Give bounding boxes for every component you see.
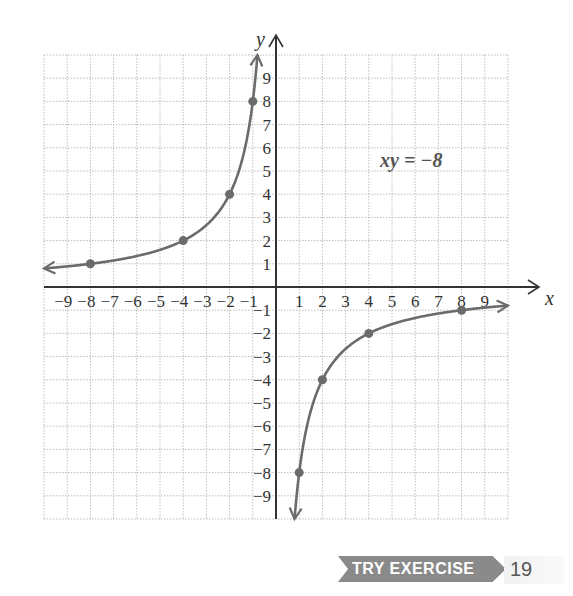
- svg-text:3: 3: [341, 292, 350, 311]
- axes: [44, 35, 539, 519]
- x-axis-label: x: [544, 287, 554, 309]
- svg-text:1: 1: [263, 255, 272, 274]
- svg-text:−5: −5: [147, 292, 165, 311]
- exercise-number: 19: [510, 558, 532, 581]
- svg-text:−3: −3: [253, 348, 271, 367]
- svg-text:−2: −2: [217, 292, 235, 311]
- svg-text:−7: −7: [101, 292, 120, 311]
- svg-text:1: 1: [295, 292, 304, 311]
- banner-label: TRY EXERCISE: [352, 560, 474, 578]
- svg-text:−9: −9: [54, 292, 72, 311]
- svg-text:8: 8: [263, 92, 272, 111]
- svg-text:−7: −7: [253, 440, 272, 459]
- svg-text:9: 9: [263, 69, 272, 88]
- svg-text:5: 5: [388, 292, 397, 311]
- svg-text:−4: −4: [170, 292, 189, 311]
- svg-text:−4: −4: [253, 371, 272, 390]
- svg-text:5: 5: [263, 162, 272, 181]
- svg-text:2: 2: [318, 292, 327, 311]
- svg-text:−9: −9: [253, 487, 271, 506]
- svg-text:−6: −6: [253, 417, 271, 436]
- svg-text:3: 3: [263, 208, 272, 227]
- svg-text:−8: −8: [253, 464, 271, 483]
- svg-text:4: 4: [365, 292, 374, 311]
- hyperbola-graph: −9−8−7−6−5−4−3−2−1123456789987654321−1−2…: [0, 0, 573, 596]
- svg-text:6: 6: [263, 139, 272, 158]
- svg-text:−6: −6: [124, 292, 142, 311]
- svg-text:6: 6: [411, 292, 420, 311]
- svg-text:−2: −2: [253, 324, 271, 343]
- svg-text:4: 4: [263, 185, 272, 204]
- svg-text:−3: −3: [193, 292, 211, 311]
- svg-text:2: 2: [263, 232, 272, 251]
- try-exercise-banner[interactable]: TRY EXERCISE 19: [338, 556, 564, 584]
- y-axis-label: y: [254, 28, 265, 51]
- equation-label: xy = −8: [379, 149, 442, 172]
- svg-text:−8: −8: [77, 292, 95, 311]
- svg-text:−5: −5: [253, 394, 271, 413]
- svg-text:7: 7: [434, 292, 443, 311]
- svg-text:−1: −1: [253, 301, 271, 320]
- svg-text:7: 7: [263, 116, 272, 135]
